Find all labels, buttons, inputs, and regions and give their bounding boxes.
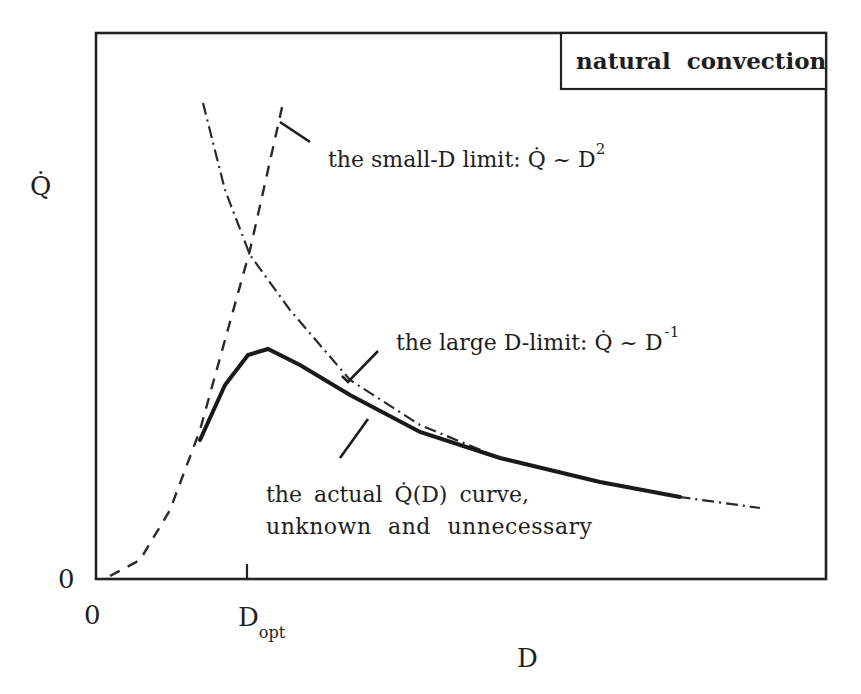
actual-curve	[200, 349, 680, 497]
legend: natural convection	[561, 33, 827, 89]
dopt-main: D	[238, 602, 259, 632]
x-zero-label: 0	[84, 600, 101, 630]
actual-curve-annotation: the actual Q̇(D) curve, unknown and unne…	[266, 482, 593, 539]
x-axis-label: D	[517, 643, 538, 673]
chart-figure: natural convection the small-D limit: Q̇…	[0, 0, 861, 694]
large-limit-exponent: -1	[665, 323, 680, 341]
svg-text:the small-D limit: Q̇ ~ D2: the small-D limit: Q̇ ~ D2	[328, 140, 605, 172]
actual-curve-line1: the actual Q̇(D) curve,	[266, 482, 529, 507]
large-limit-text: the large D-limit: Q̇ ~ D	[396, 330, 663, 355]
y-zero-label: 0	[58, 564, 75, 594]
dopt-subscript: opt	[259, 623, 286, 642]
small-limit-leader	[280, 122, 310, 142]
small-limit-annotation: the small-D limit: Q̇ ~ D2	[328, 140, 605, 172]
small-d-limit-curve	[110, 103, 283, 576]
small-limit-exponent: 2	[596, 140, 606, 158]
large-limit-annotation: the large D-limit: Q̇ ~ D-1	[396, 323, 679, 355]
actual-curve-leader	[340, 419, 368, 458]
dopt-label: Dopt	[238, 602, 286, 642]
actual-curve-line2: unknown and unnecessary	[266, 514, 593, 539]
small-limit-text: the small-D limit: Q̇ ~ D	[328, 147, 596, 172]
svg-text:the large D-limit: Q̇ ~ D-1: the large D-limit: Q̇ ~ D-1	[396, 323, 679, 355]
legend-label: natural convection	[576, 47, 827, 74]
y-axis-label: Q̇	[30, 171, 51, 201]
